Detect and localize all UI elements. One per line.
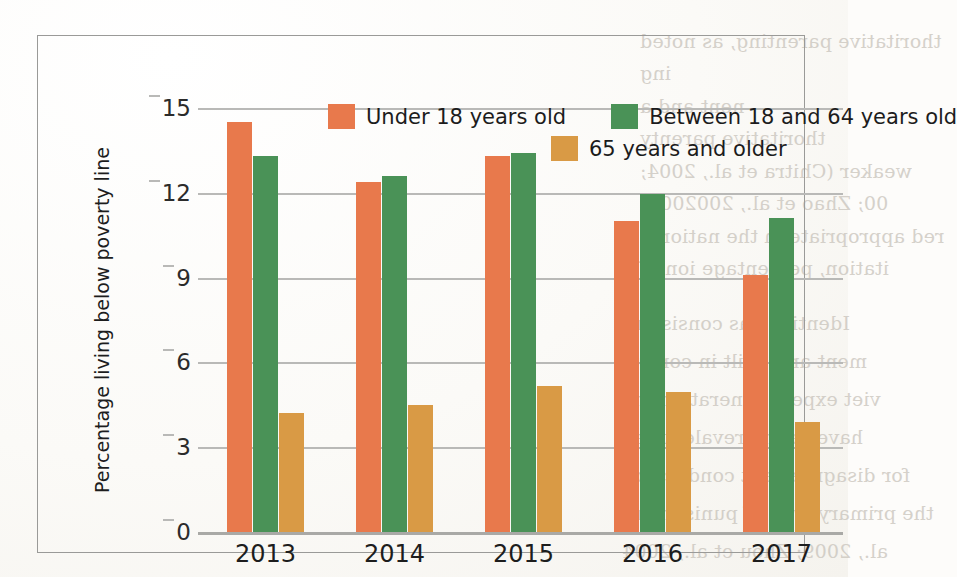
- y-axis-tick-label: 12: [162, 180, 191, 206]
- bar[interactable]: [537, 386, 562, 532]
- y-axis-tick-label: 9: [176, 265, 191, 291]
- chart-legend: Under 18 years old Between 18 and 64 yea…: [328, 104, 798, 161]
- y-axis-tick-mark: [163, 519, 174, 521]
- legend-label: Between 18 and 64 years old: [649, 105, 957, 129]
- bar[interactable]: [279, 413, 304, 532]
- bar[interactable]: [356, 182, 381, 533]
- legend-label: 65 years and older: [589, 137, 787, 161]
- bar[interactable]: [614, 221, 639, 532]
- bar-group: [485, 108, 562, 532]
- legend-item-18-to-64[interactable]: Between 18 and 64 years old: [611, 104, 957, 129]
- bar[interactable]: [253, 156, 278, 532]
- y-axis-tick-label: 3: [176, 434, 191, 460]
- y-axis-tick-mark: [149, 180, 160, 182]
- bar[interactable]: [485, 156, 510, 532]
- gridline: [198, 532, 843, 535]
- y-axis-tick-mark: [163, 349, 174, 351]
- bar-group: [356, 108, 433, 532]
- x-axis-tick-label: 2013: [216, 540, 316, 568]
- bar[interactable]: [769, 218, 794, 532]
- plot-area: 03691215 Percentage living below poverty…: [198, 108, 843, 532]
- y-axis-tick-mark: [149, 95, 160, 97]
- legend-swatch-icon: [551, 136, 578, 161]
- chart-frame: 03691215 Percentage living below poverty…: [37, 35, 805, 553]
- bar[interactable]: [743, 275, 768, 532]
- bar[interactable]: [511, 153, 536, 532]
- y-axis-tick-label: 6: [176, 349, 191, 375]
- y-axis-tick-mark: [163, 265, 174, 267]
- x-axis-tick-label: 2015: [474, 540, 574, 568]
- legend-row-1: Under 18 years old Between 18 and 64 yea…: [328, 104, 798, 129]
- legend-item-65-plus[interactable]: 65 years and older: [551, 136, 787, 161]
- bar[interactable]: [640, 194, 665, 532]
- x-axis-tick-label: 2014: [345, 540, 445, 568]
- legend-row-2: 65 years and older: [551, 136, 798, 161]
- legend-item-under-18[interactable]: Under 18 years old: [328, 104, 566, 129]
- bar-group: [743, 108, 820, 532]
- legend-swatch-icon: [611, 104, 638, 129]
- bar[interactable]: [408, 405, 433, 532]
- bar-group: [614, 108, 691, 532]
- bar[interactable]: [227, 122, 252, 532]
- y-axis-label: Percentage living below poverty line: [91, 147, 113, 493]
- bar-group: [227, 108, 304, 532]
- bar[interactable]: [666, 392, 691, 532]
- x-axis-tick-label: 2017: [732, 540, 832, 568]
- bar[interactable]: [382, 176, 407, 532]
- legend-swatch-icon: [328, 104, 355, 129]
- x-axis-tick-label: 2016: [603, 540, 703, 568]
- bar[interactable]: [795, 422, 820, 532]
- legend-label: Under 18 years old: [366, 105, 566, 129]
- y-axis-tick-label: 0: [176, 519, 191, 545]
- y-axis-tick-label: 15: [162, 95, 191, 121]
- y-axis-tick-mark: [163, 434, 174, 436]
